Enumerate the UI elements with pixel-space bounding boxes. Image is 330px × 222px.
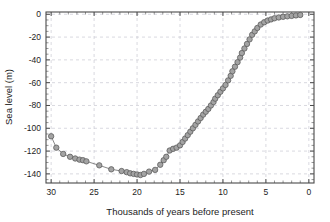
y-tick-label: -20 bbox=[29, 32, 42, 42]
data-point bbox=[84, 159, 89, 164]
data-point bbox=[119, 168, 124, 173]
data-point bbox=[141, 171, 146, 176]
y-axis-title: Sea level (m) bbox=[3, 69, 14, 125]
data-point bbox=[54, 145, 59, 150]
data-point bbox=[152, 167, 157, 172]
x-tick-label: 30 bbox=[46, 187, 56, 197]
data-point bbox=[48, 134, 53, 139]
data-point bbox=[298, 12, 303, 17]
x-axis-title: Thousands of years before present bbox=[106, 206, 254, 217]
data-point bbox=[60, 151, 65, 156]
x-tick-label: 20 bbox=[132, 187, 142, 197]
y-tick-label: -120 bbox=[24, 146, 41, 156]
data-point bbox=[97, 163, 102, 168]
data-point bbox=[146, 169, 151, 174]
data-point bbox=[164, 154, 169, 159]
x-tick-label: 0 bbox=[306, 187, 311, 197]
y-tick-label: -140 bbox=[24, 169, 41, 179]
x-tick-label: 5 bbox=[264, 187, 269, 197]
x-tick-label: 10 bbox=[218, 187, 228, 197]
y-tick-label: 0 bbox=[36, 9, 41, 19]
y-tick-label: -100 bbox=[24, 123, 41, 133]
y-tick-label: -60 bbox=[29, 78, 42, 88]
y-tick-label: -80 bbox=[29, 100, 42, 110]
data-point bbox=[109, 167, 114, 172]
x-tick-label: 15 bbox=[175, 187, 185, 197]
sea-level-chart: 302520151050 0-20-40-60-80-100-120-140 T… bbox=[0, 0, 330, 222]
y-tick-label: -40 bbox=[29, 55, 42, 65]
x-tick-label: 25 bbox=[89, 187, 99, 197]
data-point bbox=[67, 154, 72, 159]
